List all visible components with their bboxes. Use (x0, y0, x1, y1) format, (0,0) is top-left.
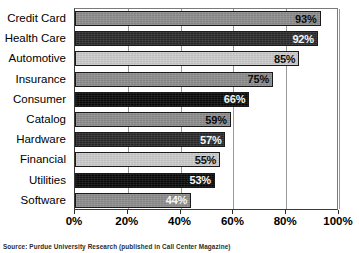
category-label: Financial (20, 149, 66, 169)
bar-value-label: 66% (224, 93, 248, 105)
plot-area: 93%92%85%75%66%59%57%55%53%44% (74, 8, 338, 210)
category-label: Automotive (8, 48, 66, 68)
x-tick-label: 40% (168, 215, 191, 227)
x-tick (74, 210, 75, 214)
bar-value-label: 59% (205, 114, 229, 126)
bar-value-label: 57% (200, 134, 224, 146)
bar[interactable]: 57% (75, 132, 225, 147)
x-tick (338, 210, 339, 214)
bar-value-label: 75% (248, 73, 272, 85)
bar[interactable]: 75% (75, 72, 273, 87)
x-tick-label: 0% (66, 215, 83, 227)
bar-row: 53% (75, 171, 337, 191)
category-label: Health Care (5, 28, 66, 48)
category-label: Utilities (29, 170, 66, 190)
x-tick-label: 100% (323, 215, 352, 227)
bar[interactable]: 85% (75, 51, 299, 66)
x-tick-label: 80% (274, 215, 297, 227)
bar[interactable]: 93% (75, 11, 321, 26)
x-tick (127, 210, 128, 214)
x-axis: 0%20%40%60%80%100% (74, 210, 338, 232)
bar-value-label: 92% (292, 33, 316, 45)
category-label: Credit Card (7, 8, 66, 28)
bar-row: 57% (75, 130, 337, 150)
x-tick-label: 20% (115, 215, 138, 227)
gridline (339, 9, 340, 209)
bar-chart: Credit CardHealth CareAutomotiveInsuranc… (0, 0, 359, 253)
bar-row: 66% (75, 90, 337, 110)
x-tick (232, 210, 233, 214)
bar-value-label: 93% (295, 13, 319, 25)
bar-value-label: 55% (195, 154, 219, 166)
bar-row: 85% (75, 49, 337, 69)
bar[interactable]: 66% (75, 92, 249, 107)
category-label: Catalog (26, 109, 66, 129)
x-tick (180, 210, 181, 214)
x-tick-label: 60% (221, 215, 244, 227)
bar[interactable]: 44% (75, 193, 191, 208)
bar-row: 75% (75, 70, 337, 90)
category-label: Software (21, 190, 66, 210)
bar[interactable]: 53% (75, 173, 215, 188)
source-annotation: Source: Purdue University Research (publ… (3, 243, 231, 250)
category-label: Insurance (15, 69, 66, 89)
bar-row: 93% (75, 9, 337, 29)
bar-row: 44% (75, 191, 337, 211)
bar-row: 59% (75, 110, 337, 130)
bar-value-label: 85% (274, 53, 298, 65)
bar-value-label: 53% (189, 174, 213, 186)
x-tick (285, 210, 286, 214)
bar[interactable]: 92% (75, 31, 318, 46)
bar[interactable]: 55% (75, 152, 220, 167)
category-label: Consumer (13, 89, 66, 109)
bar[interactable]: 59% (75, 112, 231, 127)
bar-row: 55% (75, 150, 337, 170)
category-label: Hardware (16, 129, 66, 149)
bar-row: 92% (75, 29, 337, 49)
category-axis: Credit CardHealth CareAutomotiveInsuranc… (0, 8, 70, 210)
bar-value-label: 44% (166, 194, 190, 206)
